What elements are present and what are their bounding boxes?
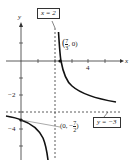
curve-left-branch [6, 116, 48, 160]
x-intercept-label: (73, 0) [62, 38, 78, 51]
x-tick-label-4: 4 [86, 65, 90, 72]
y-tick-label-neg4: −4 [8, 126, 15, 133]
x-axis-arrow [120, 59, 124, 63]
y-tick-label-neg2: −2 [8, 92, 15, 99]
y-intercept-label: (0, −72) [60, 120, 79, 133]
y-intercept-leader [21, 120, 60, 127]
x-axis-label: x [125, 58, 128, 65]
vertical-asymptote-callout: x = 2 [37, 8, 60, 19]
x-intercept-point [58, 59, 61, 62]
horizontal-asymptote-callout: y = −3 [93, 117, 121, 128]
y-axis-arrow [19, 22, 23, 27]
graph-canvas [0, 0, 132, 162]
y-axis-label: y [18, 14, 21, 21]
vert-asym-leader [52, 21, 55, 28]
